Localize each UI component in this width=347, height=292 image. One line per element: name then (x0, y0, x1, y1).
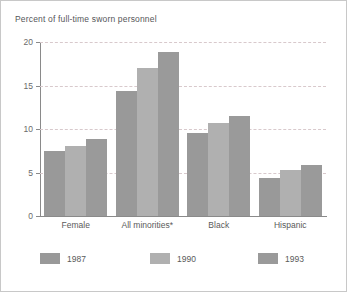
legend-label: 1993 (285, 254, 304, 264)
bar (86, 139, 107, 216)
y-axis-tick-label: 20 (24, 37, 33, 47)
bar (158, 52, 179, 216)
bar (44, 151, 65, 216)
bar-groups: FemaleAll minorities*BlackHispanic (40, 42, 326, 216)
x-axis-category-label: Female (40, 220, 112, 230)
tick-mark (36, 216, 40, 217)
legend-item[interactable]: 1990 (150, 253, 196, 264)
bar (65, 146, 86, 216)
x-axis-line (40, 216, 327, 217)
bar-group: Hispanic (255, 42, 327, 216)
bar (280, 170, 301, 216)
legend-item[interactable]: 1987 (40, 253, 86, 264)
x-axis-category-label: All minorities* (112, 220, 184, 230)
chart-figure: Percent of full-time sworn personnel 051… (0, 0, 347, 292)
x-axis-category-label: Hispanic (255, 220, 327, 230)
legend-label: 1990 (177, 254, 196, 264)
bar (208, 123, 229, 216)
bar (259, 178, 280, 216)
bar (187, 133, 208, 216)
plot-area: 05101520 FemaleAll minorities*BlackHispa… (40, 42, 326, 216)
legend-swatch (258, 253, 278, 264)
bar (301, 165, 322, 216)
bar (116, 91, 137, 216)
chart-legend: 198719901993 (40, 253, 327, 269)
legend-label: 1987 (67, 254, 86, 264)
legend-swatch (150, 253, 170, 264)
x-axis-category-label: Black (183, 220, 255, 230)
bar (137, 68, 158, 216)
bar-group: All minorities* (112, 42, 184, 216)
y-axis-tick-label: 15 (24, 81, 33, 91)
bar (229, 116, 250, 216)
y-axis-tick-label: 0 (28, 211, 33, 221)
bar-group: Black (183, 42, 255, 216)
y-axis-tick-label: 10 (24, 124, 33, 134)
bar-group: Female (40, 42, 112, 216)
legend-swatch (40, 253, 60, 264)
y-axis-tick-label: 5 (28, 168, 33, 178)
chart-title: Percent of full-time sworn personnel (15, 14, 157, 24)
legend-item[interactable]: 1993 (258, 253, 304, 264)
